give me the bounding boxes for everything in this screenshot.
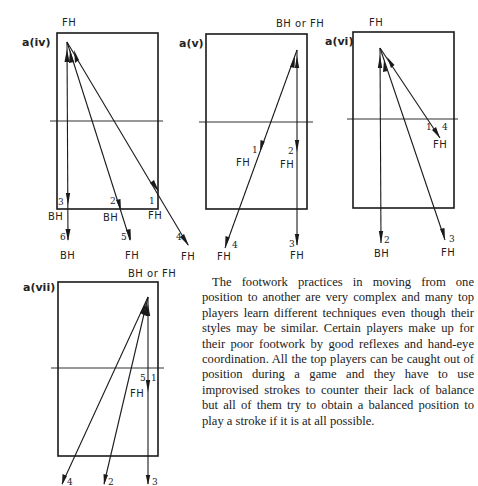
arrow-head-icon — [295, 56, 299, 68]
stroke-number: 4 — [232, 240, 238, 250]
ball-path — [67, 42, 130, 240]
stroke-label: FH — [148, 210, 162, 221]
stroke-label: FH — [441, 247, 455, 258]
stroke-label: FH — [280, 159, 294, 170]
stroke-number: 3 — [289, 239, 295, 249]
stroke-label: FH — [130, 388, 144, 399]
stroke-number: 3 — [58, 197, 64, 207]
arrow-head-icon — [387, 57, 395, 68]
arrow-head-icon — [378, 55, 382, 68]
stroke-number: 2 — [288, 146, 294, 156]
stroke-number: 2 — [110, 196, 116, 206]
stroke-label: FH — [125, 250, 139, 261]
arrow-head-icon — [66, 229, 71, 241]
ball-path — [67, 42, 68, 240]
stroke-number: 4 — [176, 232, 182, 242]
arrow-head-icon — [379, 231, 383, 243]
stroke-label: BH — [48, 211, 63, 222]
arrow-head-icon — [260, 140, 265, 152]
stroke-number: 3 — [152, 477, 158, 486]
diagram-title: a(iv) — [22, 36, 50, 49]
arrow-head-icon — [65, 49, 70, 62]
stroke-number: 1 — [149, 196, 155, 206]
diagram-title: a(vii) — [23, 281, 55, 294]
arrow-head-icon — [225, 236, 230, 248]
stroke-label: FH — [181, 251, 195, 262]
stroke-label: BH — [374, 248, 389, 259]
diagram-a-vii: BH or FH a(vii) 5 1 4 2 3 FH — [23, 268, 176, 486]
stroke-number: 4 — [67, 477, 73, 486]
stroke-label: BH — [103, 212, 118, 223]
diagram-title: a(vi) — [325, 35, 353, 48]
ball-path — [67, 42, 188, 245]
stroke-number: 1 — [426, 122, 432, 132]
arrow-head-icon — [66, 193, 70, 205]
stroke-number: 1 — [151, 373, 157, 383]
diagram-a-vi: FH a(vi) 1 4 2 3 FH BH FH — [325, 17, 458, 259]
stroke-number: 4 — [442, 122, 448, 132]
stroke-label: FH — [217, 251, 231, 262]
stroke-number: 6 — [60, 232, 66, 242]
diagram-a-iv: FH a(iv) 3 2 1 6 5 4 BH BH FH BH FH FH — [22, 17, 195, 262]
top-label: FH — [369, 17, 383, 28]
diagram-title: a(v) — [179, 37, 204, 50]
stroke-number: 3 — [449, 234, 455, 244]
body-paragraph: The footwork practices in moving from on… — [202, 275, 474, 429]
stroke-label: FH — [433, 139, 447, 150]
arrow-head-icon — [440, 228, 445, 240]
arrow-head-icon — [295, 234, 299, 246]
stroke-label: FH — [290, 250, 304, 261]
top-label: BH or FH — [276, 18, 324, 29]
stroke-number: 5 — [121, 232, 127, 242]
arrow-head-icon — [295, 140, 299, 152]
stroke-number: 5 — [140, 373, 146, 383]
arrow-head-icon — [126, 229, 131, 241]
diagram-a-v: BH or FH a(v) 1 2 3 4 FH FH FH FH — [179, 18, 324, 262]
stroke-number: 1 — [252, 145, 258, 155]
stroke-label: FH — [236, 157, 250, 168]
stroke-number: 2 — [384, 235, 390, 245]
table-outline — [353, 32, 454, 208]
top-label: BH or FH — [128, 268, 176, 279]
stroke-number: 2 — [108, 477, 114, 486]
table-outline — [206, 34, 307, 209]
arrow-head-icon — [290, 56, 295, 68]
ball-path — [380, 48, 381, 243]
arrow-head-icon — [146, 380, 150, 392]
arrow-head-icon — [146, 475, 150, 485]
top-label: FH — [62, 17, 76, 28]
stroke-label: BH — [60, 250, 75, 261]
